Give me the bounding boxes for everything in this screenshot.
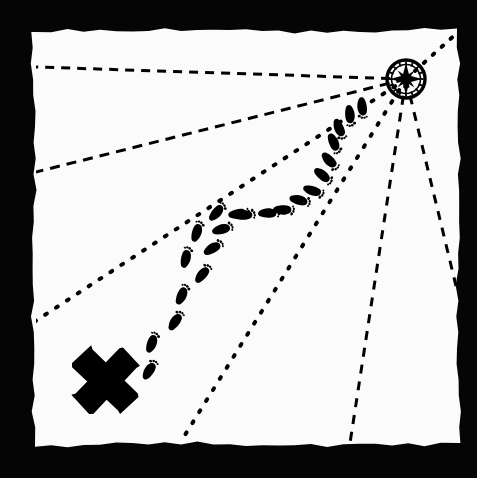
map-svg [0,0,477,478]
map-illustration-canvas [0,0,477,478]
compass-hub[interactable] [404,77,409,82]
compass-rose[interactable] [387,60,425,98]
